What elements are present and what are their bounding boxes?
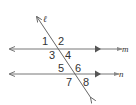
angle-4-label: 4 — [65, 49, 71, 61]
label-n: n — [119, 69, 124, 79]
angle-6-label: 6 — [75, 62, 81, 74]
parallel-marker-icon — [95, 71, 101, 78]
angle-5-label: 5 — [58, 62, 64, 74]
angle-1-label: 1 — [42, 35, 48, 47]
line-n — [10, 71, 119, 78]
diagram-canvas: ℓ m n 1 2 3 4 5 6 7 8 — [0, 0, 136, 105]
label-transversal: ℓ — [43, 14, 47, 24]
angle-2-label: 2 — [58, 35, 64, 47]
parallel-marker-icon — [95, 46, 101, 53]
angle-8-label: 8 — [83, 76, 89, 88]
angle-7-label: 7 — [66, 76, 72, 88]
label-m: m — [122, 44, 129, 54]
angle-3-label: 3 — [49, 49, 55, 61]
